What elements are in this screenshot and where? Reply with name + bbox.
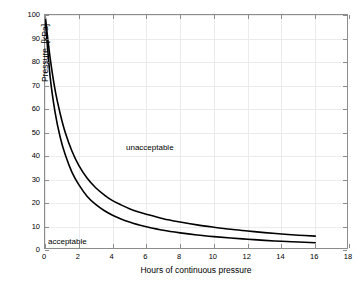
x-tick [315,244,316,248]
y-tick-right [343,39,347,40]
y-tick [45,180,49,181]
lower-threshold-curve [45,15,315,243]
x-tick-label: 16 [310,252,318,261]
x-tick-label: 18 [344,252,352,261]
y-tick [45,203,49,204]
x-tick-top [349,15,350,19]
y-tick-right [343,133,347,134]
y-tick-right [343,250,347,251]
y-tick-right [343,156,347,157]
x-tick [281,244,282,248]
y-tick-right [343,15,347,16]
x-tick-top [248,15,249,19]
y-tick-right [343,62,347,63]
y-tick-right [343,203,347,204]
y-tick-label: 50 [32,127,40,136]
x-tick [113,244,114,248]
y-tick [45,250,49,251]
y-tick-label: 0 [36,245,40,254]
x-tick-top [281,15,282,19]
x-tick-top [79,15,80,19]
y-tick-label: 40 [32,151,40,160]
y-axis-title: Pressure, [kPa] [40,0,50,143]
x-tick [349,244,350,248]
x-tick [214,244,215,248]
x-tick-top [113,15,114,19]
x-tick [248,244,249,248]
y-tick [45,156,49,157]
x-tick-label: 2 [76,252,80,261]
x-tick-top [214,15,215,19]
upper-threshold-curve [45,15,315,236]
annotation-acceptable: acceptable [48,237,87,246]
x-tick [146,244,147,248]
x-tick-top [146,15,147,19]
y-tick-label: 30 [32,174,40,183]
x-axis-title: Hours of continuous pressure [44,265,348,275]
y-tick-right [343,86,347,87]
annotation-unacceptable: unacceptable [126,143,174,152]
x-tick-label: 8 [177,252,181,261]
curve-layer [45,15,349,250]
y-tick-right [343,227,347,228]
x-tick-top [315,15,316,19]
x-tick-label: 14 [276,252,284,261]
x-tick-label: 12 [242,252,250,261]
x-tick-label: 0 [42,252,46,261]
x-tick-label: 10 [209,252,217,261]
pressure-vs-time-chart: 024681012141618 0102030405060708090100 H… [0,0,362,287]
y-tick [45,227,49,228]
y-tick-right [343,180,347,181]
y-tick-label: 70 [32,80,40,89]
y-tick-right [343,109,347,110]
y-tick-label: 90 [32,33,40,42]
x-tick-top [180,15,181,19]
x-tick [45,244,46,248]
y-tick-label: 100 [27,10,40,19]
y-tick-label: 60 [32,104,40,113]
y-tick-label: 10 [32,221,40,230]
x-tick-label: 6 [143,252,147,261]
plot-area [44,14,348,249]
y-tick-label: 20 [32,198,40,207]
y-tick-label: 80 [32,57,40,66]
x-tick [180,244,181,248]
x-tick-label: 4 [109,252,113,261]
